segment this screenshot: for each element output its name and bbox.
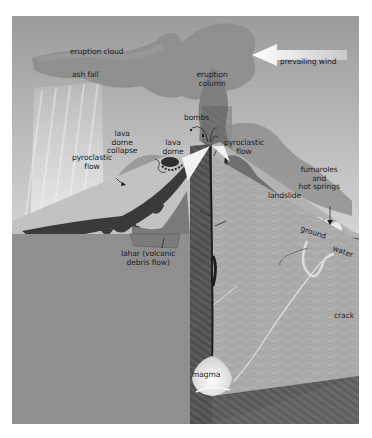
label-lava-dome: lava dome: [163, 139, 184, 156]
label-landslide: landslide: [268, 192, 301, 201]
label-bombs: bombs: [184, 114, 209, 123]
label-pyroclastic-flow-right: pyroclastic flow: [224, 139, 264, 156]
label-magma: magma: [192, 371, 220, 380]
label-ash-fall: ash fall: [72, 71, 99, 80]
label-crack: crack: [334, 312, 354, 321]
label-prevailing-wind: prevailing wind: [280, 58, 336, 67]
volcano-illustration: [12, 16, 359, 424]
volcano-diagram: eruption cloud ash fall eruption column …: [12, 16, 359, 424]
label-lava-dome-collapse: lava dome collapse: [107, 130, 137, 156]
label-eruption-cloud: eruption cloud: [70, 48, 124, 57]
label-fumaroles-hot-springs: fumaroles and hot springs: [299, 166, 340, 192]
label-pyroclastic-flow-left: pyroclastic flow: [72, 154, 112, 171]
label-eruption-column: eruption column: [197, 71, 228, 88]
label-lahar: lahar (volcanic debris flow): [121, 250, 175, 267]
